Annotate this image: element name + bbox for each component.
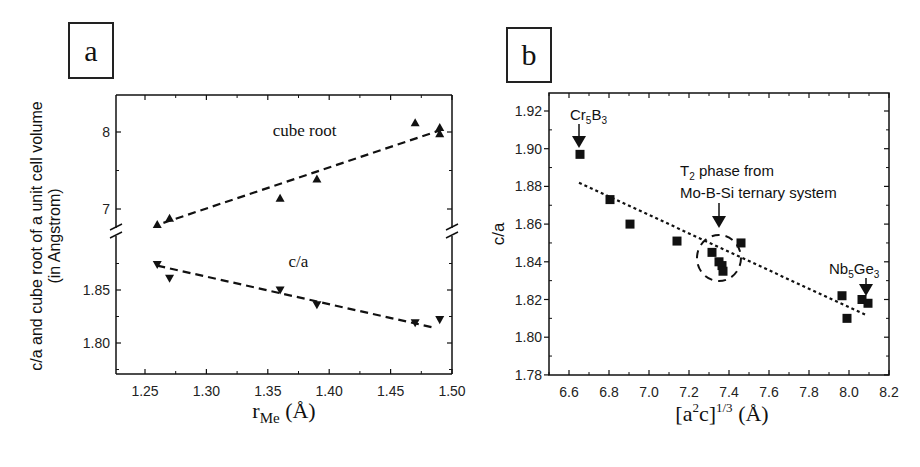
cube-root-point — [276, 194, 285, 202]
t2-arrow-icon — [712, 216, 726, 228]
data-point — [626, 220, 635, 229]
data-point — [843, 314, 852, 323]
figure-canvas: 1.251.301.351.401.451.50781.801.85cube r… — [0, 0, 920, 467]
cube-root-point — [165, 214, 174, 222]
ca-fit-line — [157, 266, 436, 329]
x-axis-label: rMe (Å) — [252, 398, 315, 426]
cr5b3-arrow-icon — [572, 136, 586, 148]
t2-label-line1: T2 phase from — [680, 162, 774, 182]
x-tick-label: 8.2 — [879, 384, 899, 400]
y-tick-label: 1.86 — [515, 216, 542, 232]
x-tick-label: 6.6 — [559, 384, 579, 400]
data-point — [737, 238, 746, 247]
y-tick-label: 1.80 — [83, 335, 110, 351]
nb5ge3-arrow-icon — [859, 284, 873, 296]
data-point — [708, 248, 717, 257]
y-tick-label: 1.80 — [515, 329, 542, 345]
y-tick-label: 1.84 — [515, 254, 542, 270]
chart-b: 6.66.87.07.27.47.67.88.08.21.781.801.821… — [489, 93, 899, 426]
y-tick-label: 1.82 — [515, 292, 542, 308]
data-point — [719, 267, 728, 276]
y-tick-label: 7 — [102, 201, 110, 217]
x-tick-label: 6.8 — [599, 384, 619, 400]
y-tick-label: 1.78 — [515, 367, 542, 383]
fit-line — [579, 183, 865, 315]
x-tick-label: 1.35 — [254, 383, 281, 399]
ca-annotation: c/a — [289, 252, 309, 271]
data-point — [673, 237, 682, 246]
ca-point — [165, 275, 174, 283]
cube-root-fit-line — [163, 130, 439, 222]
cr5b3-label: Cr5B3 — [570, 106, 607, 126]
cube-root-annotation: cube root — [273, 121, 337, 140]
x-tick-label: 7.2 — [679, 384, 699, 400]
ca-point — [435, 316, 444, 324]
x-axis-label: [a2c]1/3 (Å) — [675, 400, 768, 426]
plot-frame — [549, 93, 889, 375]
data-point — [576, 150, 585, 159]
y-tick-label: 1.85 — [83, 282, 110, 298]
x-tick-label: 1.30 — [193, 383, 220, 399]
y-axis-label-unit: (in Angstrom) — [46, 188, 63, 283]
nb5ge3-label: Nb5Ge3 — [829, 260, 880, 280]
ca-point — [153, 261, 162, 269]
y-tick-label: 1.90 — [515, 141, 542, 157]
y-tick-label: 8 — [102, 124, 110, 140]
data-point — [838, 291, 847, 300]
cube-root-point — [312, 174, 321, 182]
x-tick-label: 8.0 — [839, 384, 859, 400]
x-tick-label: 7.0 — [639, 384, 659, 400]
y-axis-label: c/a and cube root of a unit cell volume — [28, 101, 45, 371]
y-axis-label: c/a — [489, 222, 508, 245]
t2-label-line2: Mo-B-Si ternary system — [680, 184, 837, 201]
data-point — [606, 195, 615, 204]
cube-root-point — [153, 220, 162, 228]
x-tick-label: 7.4 — [719, 384, 739, 400]
x-tick-label: 1.50 — [438, 383, 465, 399]
x-tick-label: 1.25 — [131, 383, 158, 399]
data-point — [864, 299, 873, 308]
y-tick-label: 1.92 — [515, 103, 542, 119]
x-tick-label: 1.45 — [377, 383, 404, 399]
ca-point — [312, 301, 321, 309]
x-tick-label: 7.6 — [759, 384, 779, 400]
chart-a: 1.251.301.351.401.451.50781.801.85cube r… — [28, 95, 466, 426]
x-tick-label: 1.40 — [316, 383, 343, 399]
cube-root-point — [411, 118, 420, 126]
x-tick-label: 7.8 — [799, 384, 819, 400]
y-tick-label: 1.88 — [515, 178, 542, 194]
